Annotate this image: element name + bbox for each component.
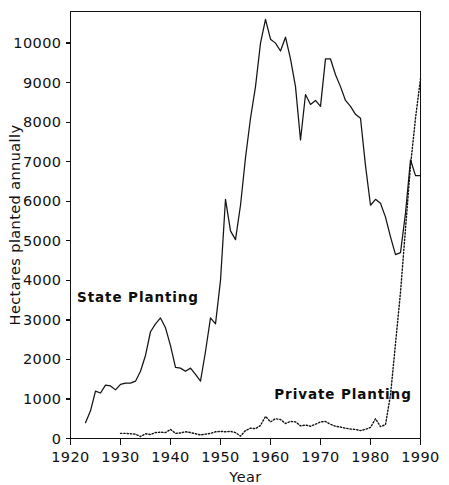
x-axis-tick-label: 1970 [301, 449, 340, 465]
y-axis-tick-label: 7000 [23, 154, 62, 170]
plot-frame [71, 12, 421, 439]
x-axis-tick-label: 1990 [401, 449, 440, 465]
y-axis-tick-label: 8000 [23, 114, 62, 130]
x-axis-tick-label: 1980 [351, 449, 390, 465]
x-axis-title: Year [228, 469, 261, 485]
x-axis-tick-label: 1960 [251, 449, 290, 465]
x-axis-tick-label: 1920 [51, 449, 90, 465]
y-axis-tick-label: 9000 [23, 75, 62, 91]
series-annotation-state-planting: State Planting [77, 289, 199, 305]
series-line-private-planting [121, 79, 421, 437]
x-axis-tick-label: 1950 [201, 449, 240, 465]
y-axis-tick-label: 2000 [23, 351, 62, 367]
y-axis-title: Hectares planted annually [7, 125, 23, 326]
x-axis-tick-label: 1940 [151, 449, 190, 465]
y-axis-tick-label: 4000 [23, 272, 62, 288]
series-annotation-private-planting: Private Planting [274, 386, 411, 402]
y-axis-tick-label: 6000 [23, 193, 62, 209]
y-axis-tick-label: 10000 [13, 35, 61, 51]
x-axis-tick-label: 1930 [101, 449, 140, 465]
y-axis-tick-label: 0 [52, 431, 62, 447]
y-axis-tick-label: 5000 [23, 233, 62, 249]
line-chart: 0100020003000400050006000700080009000100… [0, 0, 449, 485]
y-axis-tick-label: 1000 [23, 391, 62, 407]
chart-figure: 0100020003000400050006000700080009000100… [0, 0, 449, 485]
y-axis-tick-label: 3000 [23, 312, 62, 328]
series-line-state-planting [86, 19, 421, 422]
